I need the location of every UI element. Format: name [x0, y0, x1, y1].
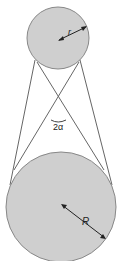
small-circle	[27, 7, 89, 69]
angle-label: 2α	[53, 122, 63, 132]
belt-diagram: r 2α R	[0, 0, 121, 261]
radius-R-label: R	[82, 216, 89, 227]
large-circle	[6, 152, 116, 261]
